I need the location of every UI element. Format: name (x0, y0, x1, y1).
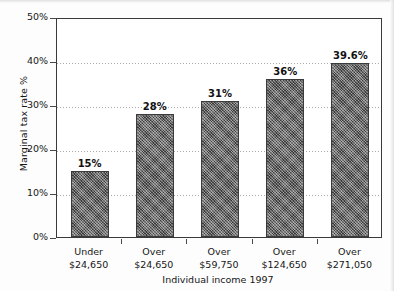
x-category-label-line1: Over (317, 245, 382, 258)
y-axis-title: Marginal tax rate % (18, 54, 29, 194)
x-category-label: Over$59,750 (186, 245, 251, 271)
bar[interactable] (136, 114, 174, 237)
x-category-label-line1: Over (252, 245, 317, 258)
bar[interactable] (331, 63, 369, 237)
scan-edge-right (390, 0, 394, 291)
y-tick-label: 30% (18, 100, 48, 110)
x-tick-mark (121, 239, 122, 244)
x-category-label: Over$271,050 (317, 245, 382, 271)
bar[interactable] (266, 79, 304, 237)
bar[interactable] (201, 101, 239, 237)
x-category-label-line2: $124,650 (252, 258, 317, 271)
plot-area: 15%28%31%36%39.6% (56, 18, 382, 238)
x-category-label: Over$124,650 (252, 245, 317, 271)
x-category-label: Over$24,650 (121, 245, 186, 271)
x-axis-title: Individual income 1997 (48, 274, 388, 285)
x-tick-mark (317, 239, 318, 244)
y-tick-label: 0% (18, 232, 48, 242)
y-tick-label: 50% (18, 12, 48, 22)
bar-chart-figure: Marginal tax rate % 50%40%30%20%10%0% 15… (0, 0, 394, 291)
y-tick-label: 40% (18, 56, 48, 66)
x-category-label-line2: $271,050 (317, 258, 382, 271)
bar-slot: 15% (57, 19, 122, 237)
bar-slot: 39.6% (318, 19, 383, 237)
y-tick-mark (50, 238, 56, 239)
x-category-label: Under$24,650 (56, 245, 121, 271)
x-category-label-line1: Over (186, 245, 251, 258)
bar-value-label: 28% (143, 101, 167, 112)
bar-slot: 28% (122, 19, 187, 237)
x-category-label-line1: Over (121, 245, 186, 258)
x-category-label-line2: $59,750 (186, 258, 251, 271)
y-tick-label: 10% (18, 188, 48, 198)
x-category-label-line2: $24,650 (121, 258, 186, 271)
bar[interactable] (71, 171, 109, 237)
bar-value-label: 36% (273, 66, 297, 77)
bar-value-label: 31% (208, 88, 232, 99)
bar-value-label: 15% (78, 158, 102, 169)
bar-series: 15%28%31%36%39.6% (57, 19, 381, 237)
x-category-label-line1: Under (56, 245, 121, 258)
y-tick-label: 20% (18, 144, 48, 154)
x-category-label-line2: $24,650 (56, 258, 121, 271)
bar-slot: 36% (253, 19, 318, 237)
bar-value-label: 39.6% (333, 50, 368, 61)
x-tick-mark (186, 239, 187, 244)
bar-slot: 31% (187, 19, 252, 237)
x-tick-mark (252, 239, 253, 244)
scan-edge-top (0, 0, 394, 3)
